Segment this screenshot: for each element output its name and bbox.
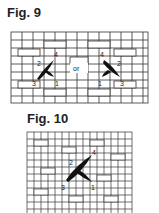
svg-text:3: 3 <box>61 184 65 191</box>
svg-text:4: 4 <box>92 149 96 156</box>
fig10-diagram: 4 2 3 1 <box>0 0 159 213</box>
svg-text:1: 1 <box>91 184 95 191</box>
svg-text:2: 2 <box>69 159 73 166</box>
